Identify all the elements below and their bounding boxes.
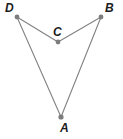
edge-d-c [17,17,58,42]
vertex-label-c: C [53,26,62,38]
vertex-label-b: B [105,2,114,14]
vertex-dot-c [56,40,61,45]
vertex-label-a: A [60,122,69,134]
vertex-dot-d [15,15,20,20]
figure-canvas [0,0,123,139]
vertex-dot-a [58,114,63,119]
vertex-dot-b [99,15,104,20]
vertex-label-d: D [5,2,14,14]
edge-b-a [61,17,101,117]
geometry-figure: D B C A [0,0,123,139]
edge-c-b [58,17,101,42]
